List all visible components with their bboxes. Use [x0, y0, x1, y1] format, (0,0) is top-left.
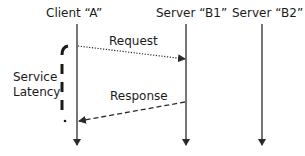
lifeline-arrowhead-icon [258, 139, 266, 146]
lifeline-arrowhead-icon [182, 139, 190, 146]
service-latency-bracket [62, 46, 68, 122]
lifeline-client-a [73, 24, 81, 146]
lifeline-server-b2 [258, 24, 266, 146]
lifeline-server-b1 [182, 24, 190, 146]
sequence-diagram-canvas [0, 0, 305, 156]
lifeline-arrowhead-icon [73, 139, 81, 146]
request-arrow [78, 46, 185, 59]
response-arrow [79, 102, 185, 121]
